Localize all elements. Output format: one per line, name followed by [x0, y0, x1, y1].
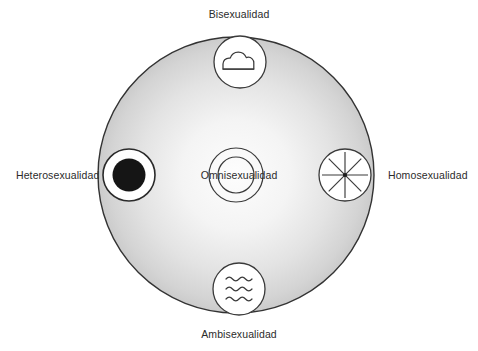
label-ambisexualidad: Ambisexualidad	[0, 329, 478, 340]
node-bisexualidad[interactable]	[214, 36, 266, 88]
node-ambisexualidad[interactable]	[213, 263, 265, 315]
diagram-canvas: Bisexualidad Heterosexualidad Homosexual…	[0, 0, 478, 351]
label-bisexualidad: Bisexualidad	[0, 9, 478, 20]
label-omnisexualidad: Omnisexualidad	[0, 170, 478, 181]
